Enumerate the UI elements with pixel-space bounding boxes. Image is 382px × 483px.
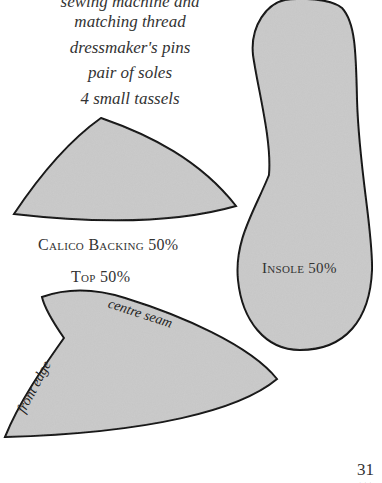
calico-backing-piece bbox=[14, 118, 236, 221]
materials-item: sewing machine and bbox=[0, 0, 260, 12]
materials-item: 4 small tassels bbox=[0, 89, 260, 109]
page-ornament: ... bbox=[358, 478, 374, 483]
top-label: Top 50% bbox=[71, 268, 130, 286]
materials-item: pair of soles bbox=[0, 63, 260, 83]
materials-item: matching thread bbox=[0, 12, 260, 32]
calico-backing-label: Calico Backing 50% bbox=[38, 236, 178, 254]
insole-label: Insole 50% bbox=[262, 260, 337, 277]
materials-item: dressmaker's pins bbox=[0, 38, 260, 58]
